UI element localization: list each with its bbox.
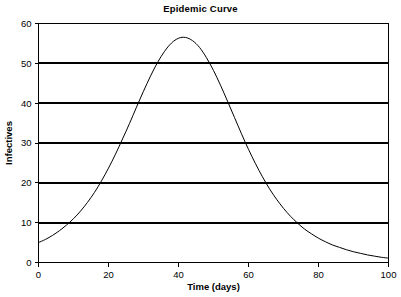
plot-area: 0102030405060 020406080100 Time (days)In… <box>0 0 401 297</box>
x-tick-label: 0 <box>36 269 41 280</box>
x-tick-label: 80 <box>313 269 324 280</box>
y-axis-ticks: 0102030405060 <box>21 18 39 268</box>
y-tick-label: 20 <box>21 177 32 188</box>
y-tick-label: 30 <box>21 137 32 148</box>
y-tick-label: 0 <box>26 257 31 268</box>
epidemic-curve-chart: Epidemic Curve 0102030405060 02040608010… <box>0 0 401 297</box>
x-tick-label: 40 <box>173 269 184 280</box>
x-axis-title: Time (days) <box>187 281 240 292</box>
x-axis-ticks: 020406080100 <box>36 263 397 280</box>
x-tick-label: 20 <box>103 269 114 280</box>
y-tick-label: 60 <box>21 18 32 29</box>
y-tick-label: 10 <box>21 217 32 228</box>
gridlines <box>39 24 389 223</box>
y-tick-label: 50 <box>21 58 32 69</box>
series-line <box>39 37 389 258</box>
x-tick-label: 100 <box>381 269 397 280</box>
data-series <box>39 37 389 258</box>
x-tick-label: 60 <box>243 269 254 280</box>
y-axis-title: Infectives <box>3 121 14 165</box>
y-tick-label: 40 <box>21 98 32 109</box>
